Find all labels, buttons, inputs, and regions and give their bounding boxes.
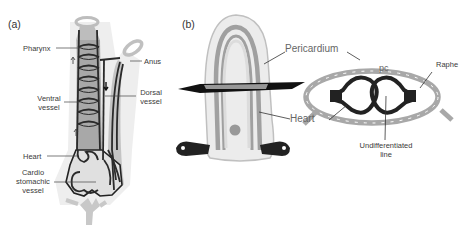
- label-heart-a: Heart: [23, 152, 41, 161]
- label-ventral-vessel-line2: vessel: [34, 103, 64, 112]
- label-anus: Anus: [144, 57, 161, 66]
- label-undifferentiated-line: Undifferentiated line: [356, 141, 416, 159]
- label-cardio-line2: stomachic: [12, 177, 54, 186]
- label-dorsal-vessel: Dorsal vessel: [136, 88, 166, 106]
- label-raphe: Raphe: [436, 60, 458, 69]
- label-dorsal-vessel-line1: Dorsal: [136, 88, 166, 97]
- panel-b-heart-cross-section: [304, 52, 452, 140]
- label-heart-b: Heart: [290, 114, 314, 123]
- label-cardio-line3: vessel: [12, 186, 54, 195]
- panel-a-label: (a): [8, 18, 21, 30]
- label-cardio-stomachic-vessel: Cardio stomachic vessel: [12, 168, 54, 195]
- label-undiff-line2: line: [356, 150, 416, 159]
- label-cardio-line1: Cardio: [12, 168, 54, 177]
- diagram-canvas: [0, 0, 472, 238]
- panel-b-heart-longitudinal: [176, 15, 305, 161]
- panel-b-label: (b): [182, 18, 195, 30]
- label-undiff-line1: Undifferentiated: [356, 141, 416, 150]
- label-pc: pc: [379, 64, 389, 73]
- label-dorsal-vessel-line2: vessel: [136, 97, 166, 106]
- label-pericardium: Pericardium: [285, 44, 338, 53]
- panel-a-organism: [47, 18, 144, 226]
- label-ventral-vessel: Ventral vessel: [34, 94, 64, 112]
- label-ventral-vessel-line1: Ventral: [34, 94, 64, 103]
- label-pharynx: Pharynx: [23, 44, 51, 53]
